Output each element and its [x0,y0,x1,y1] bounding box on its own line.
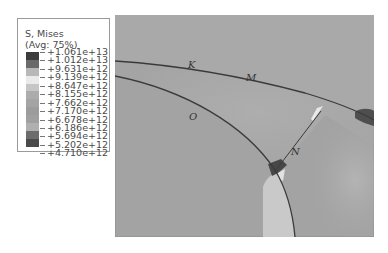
legend-swatch [26,99,39,107]
legend-swatch [26,60,39,68]
legend-swatch [26,76,39,84]
legend-color-bar [26,52,39,147]
label-n: N [291,146,300,157]
legend-swatch [26,115,39,123]
contour-legend: S, Mises (Avg: 75%) +1.061e+13 +1.012e+1… [17,18,110,152]
label-m: M [246,72,256,83]
legend-swatch [26,107,39,115]
label-k: K [188,59,195,70]
legend-swatch [26,84,39,92]
legend-swatch [26,52,39,60]
legend-label: +4.710e+12 [40,149,108,157]
legend-swatch [26,91,39,99]
legend-swatch [26,68,39,76]
label-o: O [189,111,197,122]
stress-contour-plot: K M O N [115,15,374,237]
legend-labels: +1.061e+13 +1.012e+13 +9.631e+12 +9.139e… [40,48,108,158]
legend-title: S, Mises [25,28,64,39]
legend-swatch [26,123,39,131]
legend-swatch [26,139,39,147]
legend-swatch [26,131,39,139]
